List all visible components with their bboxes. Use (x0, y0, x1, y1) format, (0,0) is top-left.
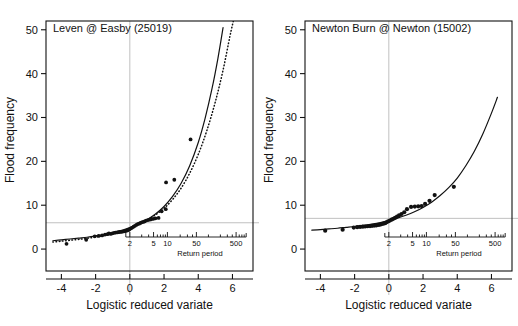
fitted-curve-dotted (53, 21, 233, 242)
data-point (452, 185, 456, 189)
y-tick-label: 10 (26, 199, 38, 211)
panel-right-svg: Newton Burn @ Newton (15002)01020304050F… (259, 0, 518, 326)
return-period-tick-label: 10 (422, 239, 430, 248)
y-tick-label: 20 (26, 155, 38, 167)
return-period-tick-label: 2 (128, 239, 132, 248)
x-tick-label: -4 (316, 282, 326, 294)
y-tick-label: 30 (285, 111, 297, 123)
y-tick-label: 20 (285, 155, 297, 167)
y-tick-label: 50 (26, 24, 38, 36)
y-tick-label: 50 (285, 24, 297, 36)
fitted-curve-solid (53, 28, 223, 241)
plot-content (312, 97, 498, 232)
figure-root: Leven @ Easby (25019)01020304050Flood fr… (0, 0, 518, 326)
data-point (427, 199, 431, 203)
plot-frame (46, 21, 253, 271)
return-period-axis-label: Return period (177, 249, 222, 258)
plot-frame (305, 21, 512, 271)
data-point (341, 228, 345, 232)
data-point (164, 207, 168, 211)
return-period-tick-label: 500 (230, 239, 243, 248)
y-tick-label: 40 (285, 68, 297, 80)
x-tick-label: 4 (195, 282, 201, 294)
x-tick-label: -2 (91, 282, 101, 294)
data-point (164, 181, 168, 185)
panel-right: Newton Burn @ Newton (15002)01020304050F… (259, 0, 518, 326)
x-axis-label: Logistic reduced variate (86, 298, 213, 312)
y-tick-label: 10 (285, 199, 297, 211)
y-axis-label: Flood frequency (262, 97, 276, 183)
data-point (160, 209, 164, 213)
panel-title-left: Leven @ Easby (25019) (53, 22, 172, 34)
x-tick-label: 6 (488, 282, 494, 294)
panel-left: Leven @ Easby (25019)01020304050Flood fr… (0, 0, 259, 326)
y-tick-label: 30 (26, 111, 38, 123)
return-period-tick-label: 5 (151, 239, 155, 248)
data-point (423, 202, 427, 206)
x-tick-label: -2 (350, 282, 360, 294)
data-point (65, 242, 69, 246)
panel-left-plot: Leven @ Easby (25019)01020304050Flood fr… (3, 21, 259, 312)
data-point (405, 207, 409, 211)
panel-title-right: Newton Burn @ Newton (15002) (312, 22, 471, 34)
y-tick-label: 0 (32, 243, 38, 255)
x-tick-label: 4 (454, 282, 460, 294)
x-axis-label: Logistic reduced variate (345, 298, 472, 312)
y-axis-label: Flood frequency (3, 97, 17, 183)
x-tick-label: 0 (386, 282, 392, 294)
x-tick-label: 6 (229, 282, 235, 294)
data-point (323, 229, 327, 233)
return-period-tick-label: 50 (192, 239, 200, 248)
data-point (84, 238, 88, 242)
data-point (172, 178, 176, 182)
data-point (433, 193, 437, 197)
return-period-tick-label: 2 (387, 239, 391, 248)
x-tick-label: 0 (127, 282, 133, 294)
return-period-tick-label: 50 (451, 239, 459, 248)
return-period-tick-label: 5 (410, 239, 414, 248)
x-tick-label: 2 (420, 282, 426, 294)
panel-left-svg: Leven @ Easby (25019)01020304050Flood fr… (0, 0, 259, 326)
return-period-tick-label: 500 (489, 239, 502, 248)
plot-content (53, 21, 233, 246)
y-tick-label: 40 (26, 68, 38, 80)
return-period-axis-label: Return period (436, 249, 481, 258)
panel-right-plot: Newton Burn @ Newton (15002)01020304050F… (262, 21, 518, 312)
data-point (157, 216, 161, 220)
data-point (189, 138, 193, 142)
data-point (409, 205, 413, 209)
y-tick-label: 0 (291, 243, 297, 255)
data-point (97, 234, 101, 238)
x-tick-label: -4 (57, 282, 67, 294)
x-tick-label: 2 (161, 282, 167, 294)
data-point (93, 234, 97, 238)
return-period-tick-label: 10 (163, 239, 171, 248)
